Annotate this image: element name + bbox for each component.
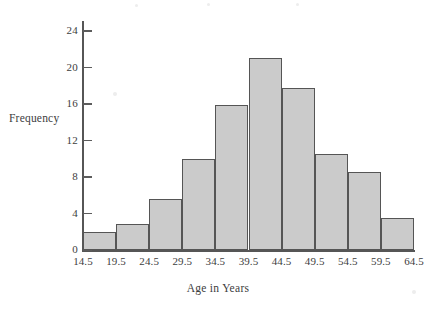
y-tick-label: 24 xyxy=(56,25,78,36)
y-axis-label: Frequency xyxy=(9,111,59,125)
y-tick-label: 4 xyxy=(56,208,78,219)
histogram-bar xyxy=(215,105,248,250)
x-axis-label: Age in Years xyxy=(0,281,436,295)
y-tick-label: 12 xyxy=(56,135,78,146)
y-tick-label: 8 xyxy=(56,171,78,182)
x-tick-label: 64.5 xyxy=(392,255,436,268)
scan-speck xyxy=(296,3,299,6)
y-tick-label: 0 xyxy=(56,244,78,255)
histogram-bar xyxy=(182,159,215,250)
histogram-bar xyxy=(116,224,149,250)
y-tick-label: 20 xyxy=(56,62,78,73)
histogram-bar xyxy=(282,88,315,250)
scan-speck xyxy=(207,3,210,6)
y-tick-label: 16 xyxy=(56,98,78,109)
histogram-bar xyxy=(149,199,182,250)
histogram-bar xyxy=(348,172,381,250)
histogram-bar xyxy=(315,154,348,250)
plot-area xyxy=(83,22,414,250)
histogram-bar xyxy=(381,218,414,250)
histogram-figure: Frequency 04812162024 14.519.524.529.534… xyxy=(0,0,436,311)
histogram-bar xyxy=(249,58,282,250)
histogram-bar xyxy=(83,232,116,250)
scan-speck xyxy=(135,4,138,7)
x-axis-line xyxy=(82,250,415,252)
